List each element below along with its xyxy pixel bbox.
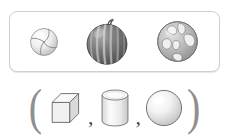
answer-expression: ( , , bbox=[0, 80, 229, 135]
open-paren: ( bbox=[29, 83, 42, 133]
cylinder-icon bbox=[97, 87, 133, 129]
object-item-watermelon[interactable] bbox=[84, 18, 130, 66]
shape-item-sphere[interactable] bbox=[144, 88, 184, 128]
object-item-globe[interactable] bbox=[155, 19, 200, 64]
cube-icon bbox=[45, 88, 85, 128]
shape-item-cylinder[interactable] bbox=[97, 87, 133, 129]
close-paren: ) bbox=[187, 83, 200, 133]
globe-icon bbox=[155, 19, 200, 64]
object-item-ball[interactable] bbox=[29, 27, 59, 57]
separator-comma-2: , bbox=[136, 106, 142, 135]
object-panel bbox=[9, 11, 220, 72]
separator-comma-1: , bbox=[88, 106, 94, 135]
shape-item-cube[interactable] bbox=[45, 88, 85, 128]
watermelon-icon bbox=[84, 18, 130, 66]
sphere-icon bbox=[144, 88, 184, 128]
ball-icon bbox=[29, 27, 59, 57]
object-row bbox=[10, 12, 219, 71]
